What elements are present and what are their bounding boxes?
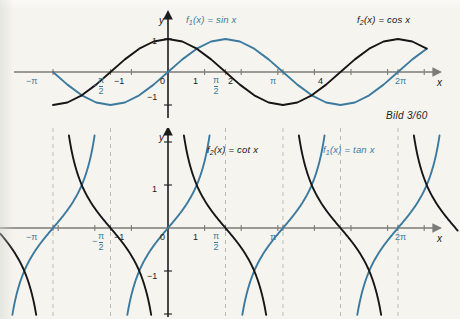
x-tick-label-top-4: 4 (318, 77, 323, 86)
figure-page: f1(x) = sin x f2(x) = cos x y x 1 −1 −π … (0, 0, 460, 319)
x-tick-label-top-pi: π (270, 77, 276, 86)
y-axis-label-bottom: y (159, 133, 164, 143)
x-tick-label-top-minus1: −1 (114, 77, 124, 86)
x-tick-label-bottom-pi-over-2: π2 (213, 232, 219, 252)
x-tick-label-top-2pi: 2π (395, 77, 406, 86)
y-tick-label-top-minus1: −1 (147, 93, 157, 102)
y-tick-label-bottom-minus1: −1 (147, 272, 157, 281)
figure-caption: Bild 3/60 (386, 110, 428, 121)
y-axis-label-top: y (159, 16, 164, 26)
tan-cot-chart (0, 128, 460, 319)
x-tick-label-bottom-0: 0 (160, 233, 165, 242)
x-tick-label-bottom-pi: π (270, 233, 276, 242)
x-tick-label-top-minus-pi: −π (26, 77, 37, 86)
x-tick-label-top-2: 2 (228, 77, 233, 86)
x-tick-label-bottom-minus1: −1 (114, 233, 124, 242)
legend-label-cos: f2(x) = cos x (357, 15, 410, 26)
y-tick-label-bottom-1: 1 (152, 185, 157, 194)
x-tick-label-top-0: 0 (160, 77, 165, 86)
x-tick-label-top-minus-pi-over-2: − π2 (98, 76, 104, 96)
x-tick-label-bottom-minus-pi: −π (26, 233, 37, 242)
legend-label-tan: f1(x) = tan x (323, 145, 375, 156)
x-tick-label-bottom-minus-pi-over-2: − π2 (98, 232, 104, 252)
legend-label-sin: f1(x) = sin x (186, 15, 237, 26)
legend-label-cot: f2(x) = cot x (207, 145, 258, 156)
x-tick-label-top-1: 1 (193, 77, 198, 86)
x-tick-label-top-pi-over-2: π2 (213, 76, 219, 96)
y-tick-label-top-1: 1 (152, 37, 157, 46)
x-axis-label-bottom: x (437, 234, 442, 244)
x-tick-label-bottom-2pi: 2π (395, 233, 406, 242)
x-tick-label-bottom-1: 1 (193, 233, 198, 242)
x-axis-label-top: x (437, 78, 442, 88)
